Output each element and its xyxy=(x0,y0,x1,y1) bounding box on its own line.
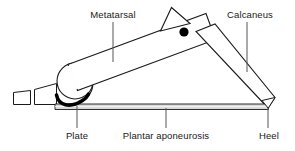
label-plantar-aponeurosis: Plantar aponeurosis xyxy=(123,130,209,141)
label-calcaneus: Calcaneus xyxy=(227,9,273,20)
plantar-aponeurosis-band xyxy=(55,104,269,110)
metatarsal-bone-bar xyxy=(68,14,216,91)
label-metatarsal: Metatarsal xyxy=(90,9,135,20)
toe-segment-proximal xyxy=(35,84,57,105)
calcaneus-bone-bar xyxy=(196,24,275,108)
label-heel: Heel xyxy=(259,130,279,141)
foot-model-diagram: Metatarsal Calcaneus Plate Plantar apone… xyxy=(0,0,295,151)
pivot-joint-dot xyxy=(179,27,188,36)
diagram-illustration xyxy=(0,0,295,151)
toe-segment-distal xyxy=(14,91,31,105)
label-plate: Plate xyxy=(66,130,88,141)
